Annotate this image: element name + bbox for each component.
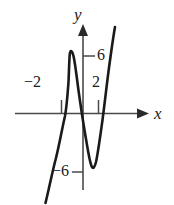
x-tick-label-neg2: −2 [24,74,41,90]
y-tick-label-6: 6 [97,47,105,63]
x-axis-label: x [154,105,162,122]
y-axis-arrowhead [78,24,88,36]
x-axis-arrowhead [137,109,149,119]
graph-canvas [0,0,174,205]
y-tick-label-neg6: −6 [52,163,69,179]
graph-figure: y x 6 −6 2 −2 [0,0,174,205]
x-tick-label-2: 2 [92,74,100,90]
y-axis-label: y [74,6,82,23]
